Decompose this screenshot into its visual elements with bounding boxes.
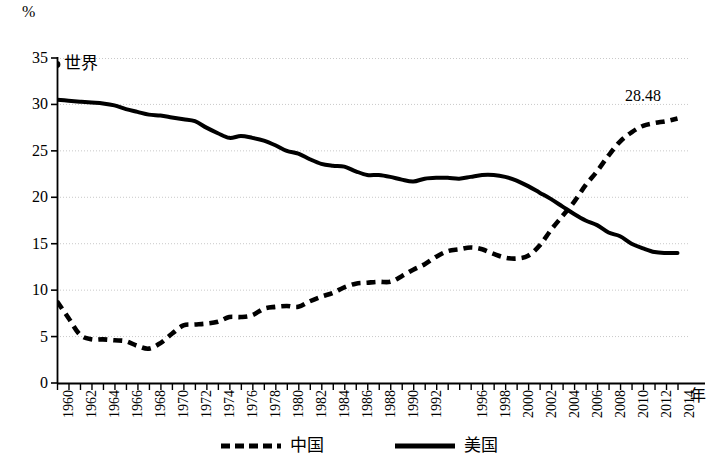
legend-swatch-dashed <box>220 441 282 451</box>
line-chart: % 年 05101520253035 196019621964196619681… <box>0 0 717 470</box>
legend-item-china: 中国 <box>220 437 324 454</box>
legend-swatch-solid <box>394 441 456 451</box>
legend-label-usa: 美国 <box>464 437 498 454</box>
china-end-value-label: 28.48 <box>625 88 661 104</box>
world-annotation-label: 世界 <box>64 55 98 72</box>
legend-item-usa: 美国 <box>394 437 498 454</box>
legend-label-china: 中国 <box>290 437 324 454</box>
chart-legend: 中国 美国 <box>0 437 717 454</box>
axis-lines <box>0 0 717 470</box>
